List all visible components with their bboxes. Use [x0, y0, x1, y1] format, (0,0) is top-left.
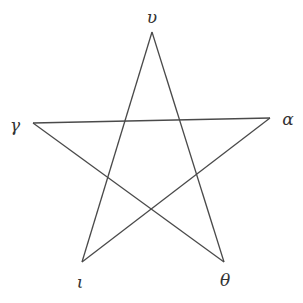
edge-gamma-alpha	[33, 118, 270, 123]
vertex-label-gamma: γ	[10, 115, 21, 135]
edge-alpha-iota	[82, 118, 270, 262]
edge-upsilon-iota	[82, 32, 152, 262]
edge-upsilon-theta	[152, 32, 224, 262]
pentagram-diagram: υγαιθ	[0, 0, 303, 303]
vertex-label-upsilon: υ	[147, 7, 157, 27]
vertex-label-theta: θ	[220, 270, 230, 290]
edges-group	[33, 32, 270, 262]
vertex-label-iota: ι	[77, 272, 84, 292]
vertex-label-alpha: α	[282, 109, 294, 129]
edge-gamma-theta	[33, 123, 224, 262]
diagram-canvas: υγαιθ	[0, 0, 303, 303]
labels-group: υγαιθ	[10, 7, 294, 292]
